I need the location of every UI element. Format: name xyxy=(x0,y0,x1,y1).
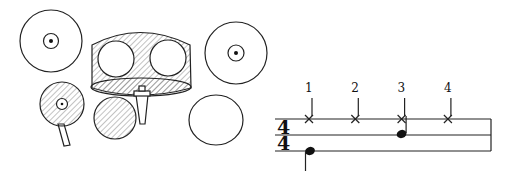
floor-tom xyxy=(189,95,243,145)
tom-left xyxy=(98,41,134,77)
notes: 1234 xyxy=(304,81,452,171)
time-signature-bottom: 4 xyxy=(277,132,290,154)
drum-diagram: 4 4 1234 xyxy=(0,0,509,181)
beat-count-2: 2 xyxy=(351,81,359,95)
beat-count-4: 4 xyxy=(444,81,452,95)
hihat xyxy=(40,82,84,146)
crash-cymbal xyxy=(20,10,82,72)
ride-cymbal xyxy=(205,22,267,84)
beat-count-1: 1 xyxy=(305,81,313,95)
tom-right xyxy=(150,40,186,76)
snare-drum xyxy=(94,97,136,139)
beat-count-3: 3 xyxy=(398,81,406,95)
